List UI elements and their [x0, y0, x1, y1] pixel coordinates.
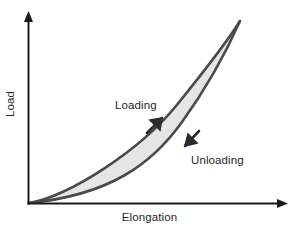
loading-curve-label: Loading: [115, 99, 157, 111]
arrow-up-icon: [24, 11, 33, 22]
elongation-axis: [28, 199, 289, 208]
arrow-right-icon: [277, 199, 288, 208]
hysteresis-energy-loss-area: [29, 21, 240, 203]
plot-area: [0, 0, 299, 232]
loading-curve: [29, 21, 240, 203]
unloading-curve: [29, 21, 240, 203]
load-axis: [24, 11, 33, 205]
unloading-curve-label: Unloading: [191, 154, 244, 166]
load-axis-label: Load: [4, 78, 16, 130]
elongation-axis-label: Elongation: [0, 211, 299, 223]
hysteresis-loop-figure: Load Elongation Loading Unloading: [0, 0, 299, 232]
arrow-down-left-icon: [185, 131, 199, 146]
